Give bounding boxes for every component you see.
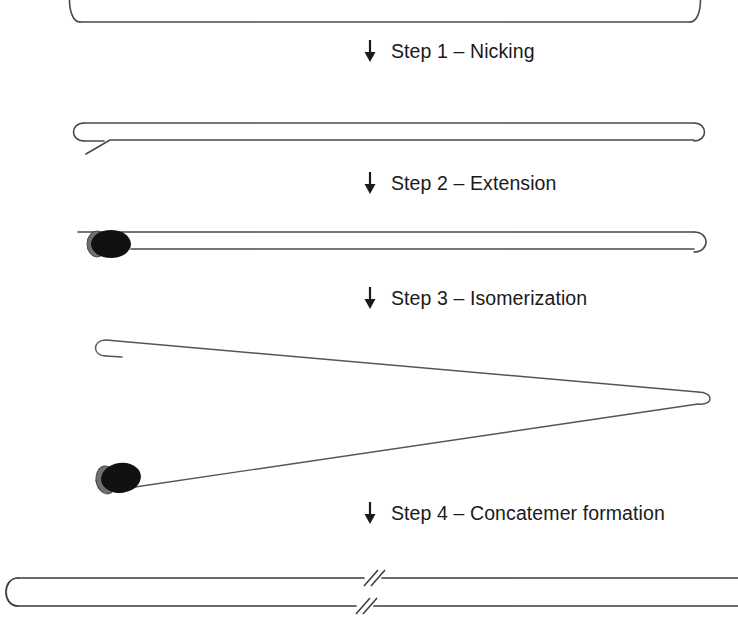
step-label-nicking: Step 1 – Nicking bbox=[360, 38, 535, 64]
nicked-free-end bbox=[86, 140, 694, 154]
double-slash-break-icon bbox=[356, 570, 385, 614]
polymerase-enzyme-icon bbox=[94, 460, 143, 496]
isomer-left-stub bbox=[106, 356, 122, 357]
isomer-upper-strand bbox=[106, 340, 698, 392]
step-label-isomerization: Step 3 – Isomerization bbox=[360, 285, 587, 311]
concatemer-left-cap bbox=[6, 578, 18, 606]
down-arrow-icon bbox=[360, 500, 382, 526]
down-arrow-icon bbox=[360, 170, 382, 196]
amplification-scheme-diagram bbox=[0, 0, 738, 636]
isomer-lower-strand bbox=[135, 404, 698, 487]
down-arrow-icon bbox=[360, 38, 382, 64]
step-label-text: Step 1 – Nicking bbox=[391, 40, 535, 63]
step-label-text: Step 3 – Isomerization bbox=[391, 287, 587, 310]
structure-dumbbell-template bbox=[70, 0, 701, 22]
step-label-text: Step 2 – Extension bbox=[391, 172, 557, 195]
structure-nicked-dumbbell bbox=[74, 123, 705, 154]
structure-isomerized bbox=[94, 340, 710, 496]
step-label-concatemer-formation: Step 4 – Concatemer formation bbox=[360, 500, 665, 526]
step-label-extension: Step 2 – Extension bbox=[360, 170, 557, 196]
structure-extended-dumbbell bbox=[78, 230, 706, 258]
step-label-text: Step 4 – Concatemer formation bbox=[391, 502, 665, 525]
structure-concatemer bbox=[6, 570, 738, 614]
figure-root: Step 1 – Nicking Step 2 – Extension Step… bbox=[0, 0, 738, 636]
down-arrow-icon bbox=[360, 285, 382, 311]
polymerase-enzyme-icon bbox=[87, 230, 131, 258]
isomer-left-hairpin bbox=[96, 340, 107, 356]
isomer-right-apex bbox=[698, 392, 710, 404]
